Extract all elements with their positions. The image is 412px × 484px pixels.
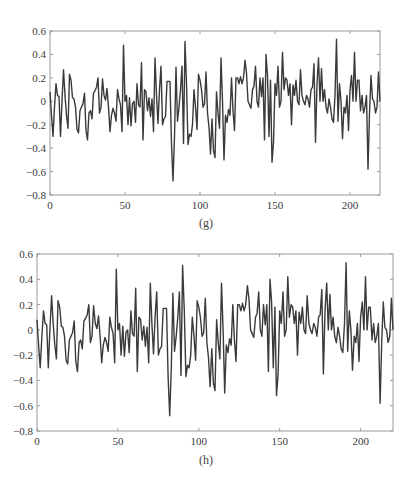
x-tick-label: 200 [352, 435, 369, 447]
y-tick-label: 0.6 [32, 25, 46, 37]
y-tick-label: 0 [28, 324, 34, 336]
y-tick-label: −0.6 [26, 166, 46, 178]
line-chart-h: 0.60.40.20−0.2−0.4−0.6−0.8050100150200 [0, 240, 412, 450]
x-tick-label: 0 [47, 199, 53, 211]
x-tick-label: 150 [271, 435, 288, 447]
x-tick-label: 50 [112, 435, 124, 447]
y-tick-label: −0.6 [13, 400, 33, 412]
chart-panel-g: 0.60.40.20−0.2−0.4−0.6−0.8050100150200 (… [0, 0, 412, 240]
x-tick-label: 100 [191, 435, 208, 447]
x-tick-label: 100 [192, 199, 209, 211]
x-tick-label: 150 [267, 199, 284, 211]
y-tick-label: 0.6 [19, 248, 33, 260]
line-chart-g: 0.60.40.20−0.2−0.4−0.6−0.8050100150200 [0, 0, 412, 215]
y-tick-label: 0.2 [19, 299, 33, 311]
y-tick-label: −0.2 [26, 119, 46, 131]
chart-caption-h: (h) [0, 453, 412, 468]
chart-caption-g: (g) [0, 216, 412, 231]
y-tick-label: −0.4 [13, 374, 33, 386]
y-tick-label: 0.2 [32, 72, 46, 84]
x-tick-label: 0 [34, 435, 40, 447]
y-tick-label: −0.8 [26, 189, 46, 201]
y-tick-label: 0.4 [19, 273, 33, 285]
chart-panel-h: 0.60.40.20−0.2−0.4−0.6−0.8050100150200 (… [0, 240, 412, 484]
signal-line [50, 39, 380, 181]
y-tick-label: −0.8 [13, 425, 33, 437]
y-tick-label: −0.4 [26, 142, 46, 154]
y-tick-label: 0.4 [32, 48, 46, 60]
y-tick-label: 0 [41, 95, 47, 107]
x-tick-label: 50 [120, 199, 132, 211]
signal-line [37, 263, 393, 416]
y-tick-label: −0.2 [13, 349, 33, 361]
x-tick-label: 200 [342, 199, 359, 211]
